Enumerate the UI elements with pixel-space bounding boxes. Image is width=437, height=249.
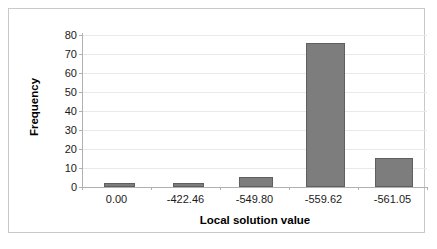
gridline-80 <box>83 35 427 36</box>
x-tick-label-3: -559.62 <box>289 193 358 205</box>
y-tick-label-10: 10 <box>53 163 77 174</box>
x-tickmark-0 <box>82 187 83 190</box>
x-tickmark-5 <box>427 187 428 190</box>
x-tickmark-4 <box>358 187 359 190</box>
y-tickmark-30 <box>79 130 82 131</box>
y-tickmark-70 <box>79 54 82 55</box>
y-tickmark-60 <box>79 73 82 74</box>
y-tick-label-70: 70 <box>53 49 77 60</box>
y-tickmark-80 <box>79 35 82 36</box>
y-tick-label-40: 40 <box>53 106 77 117</box>
y-tick-label-0: 0 <box>53 182 77 193</box>
chart-frame: 80 70 60 50 40 30 20 10 0 0.00 -422.46 -… <box>8 8 425 233</box>
gridline-40 <box>83 111 427 112</box>
gridline-60 <box>83 73 427 74</box>
gridline-70 <box>83 54 427 55</box>
y-tick-label-50: 50 <box>53 87 77 98</box>
plot-area <box>83 35 427 187</box>
y-tickmark-10 <box>79 168 82 169</box>
gridline-20 <box>83 149 427 150</box>
gridline-30 <box>83 130 427 131</box>
x-tick-label-1: -422.46 <box>151 193 220 205</box>
y-tick-label-80: 80 <box>53 30 77 41</box>
y-tick-label-60: 60 <box>53 68 77 79</box>
x-tickmark-1 <box>151 187 152 190</box>
x-axis-line <box>82 187 428 188</box>
y-axis-title: Frequency <box>28 62 40 152</box>
y-tickmark-40 <box>79 111 82 112</box>
y-tickmark-50 <box>79 92 82 93</box>
y-axis-line <box>82 33 83 189</box>
x-tickmark-3 <box>289 187 290 190</box>
x-axis-title: Local solution value <box>83 214 427 226</box>
x-tick-label-2: -549.80 <box>220 193 289 205</box>
bar-3 <box>306 43 345 187</box>
x-tick-label-0: 0.00 <box>82 193 151 205</box>
bar-4 <box>375 158 413 187</box>
y-tick-label-20: 20 <box>53 144 77 155</box>
x-tick-label-4: -561.05 <box>358 193 427 205</box>
bar-2 <box>239 177 273 187</box>
y-tick-label-30: 30 <box>53 125 77 136</box>
x-tickmark-2 <box>220 187 221 190</box>
y-tickmark-20 <box>79 149 82 150</box>
chart-figure: 80 70 60 50 40 30 20 10 0 0.00 -422.46 -… <box>0 0 437 249</box>
gridline-50 <box>83 92 427 93</box>
